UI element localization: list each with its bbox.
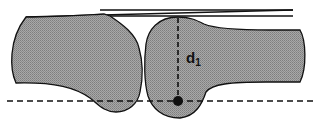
joint-diagram: d1: [0, 0, 321, 125]
right-bone: [145, 17, 305, 118]
contact-point: [173, 96, 183, 106]
left-bone: [12, 14, 142, 112]
